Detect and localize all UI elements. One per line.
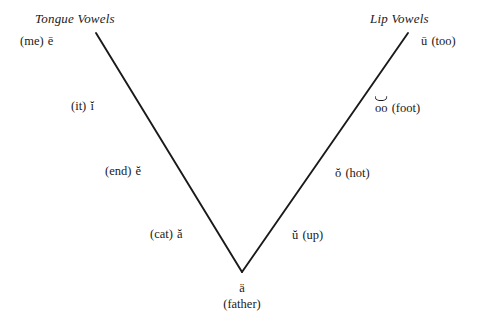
right-vowel-label-foot: oo (foot) — [374, 101, 420, 115]
left-vowel-label-me: (me) ē — [20, 34, 54, 48]
left-vowel-symbol-me: ē — [47, 34, 55, 48]
header-lip-vowels: Lip Vowels — [370, 12, 429, 27]
left-vowel-label-end: (end) ĕ — [105, 164, 142, 178]
vertex-vowel-symbol: ä — [202, 280, 282, 296]
vee-right-line — [242, 33, 408, 272]
vowel-diagram-page: Tongue Vowels Lip Vowels (me) ē (it) ĭ (… — [0, 0, 488, 329]
left-vowel-gloss-me: (me) — [20, 34, 44, 48]
right-vowel-gloss-hot: (hot) — [345, 166, 369, 180]
right-vowel-symbol-up: ŭ — [291, 228, 299, 242]
header-tongue-vowels: Tongue Vowels — [35, 12, 115, 27]
left-vowel-label-cat: (cat) ă — [150, 227, 184, 241]
left-vowel-symbol-it: ĭ — [89, 99, 94, 113]
right-vowel-symbol-foot: oo — [374, 101, 389, 115]
left-vowel-gloss-end: (end) — [105, 164, 131, 178]
right-vowel-label-up: ŭ (up) — [291, 228, 323, 242]
right-vowel-symbol-hot: ŏ — [334, 166, 342, 180]
right-vowel-gloss-foot: (foot) — [392, 101, 420, 115]
left-vowel-symbol-end: ĕ — [135, 164, 143, 178]
right-vowel-symbol-too: ū — [420, 34, 428, 48]
vertex-vowel-gloss: (father) — [202, 296, 282, 312]
right-vowel-label-too: ū (too) — [420, 34, 456, 48]
right-vowel-label-hot: ŏ (hot) — [334, 166, 370, 180]
left-vowel-gloss-it: (it) — [71, 99, 86, 113]
right-vowel-symbol-foot-group: oo — [374, 101, 389, 115]
left-vowel-label-it: (it) ĭ — [71, 99, 95, 113]
right-vowel-gloss-up: (up) — [302, 228, 323, 242]
left-vowel-gloss-cat: (cat) — [150, 227, 173, 241]
right-vowel-gloss-too: (too) — [431, 34, 455, 48]
left-vowel-symbol-cat: ă — [176, 227, 184, 241]
vertex-vowel-label: ä (father) — [202, 280, 282, 313]
